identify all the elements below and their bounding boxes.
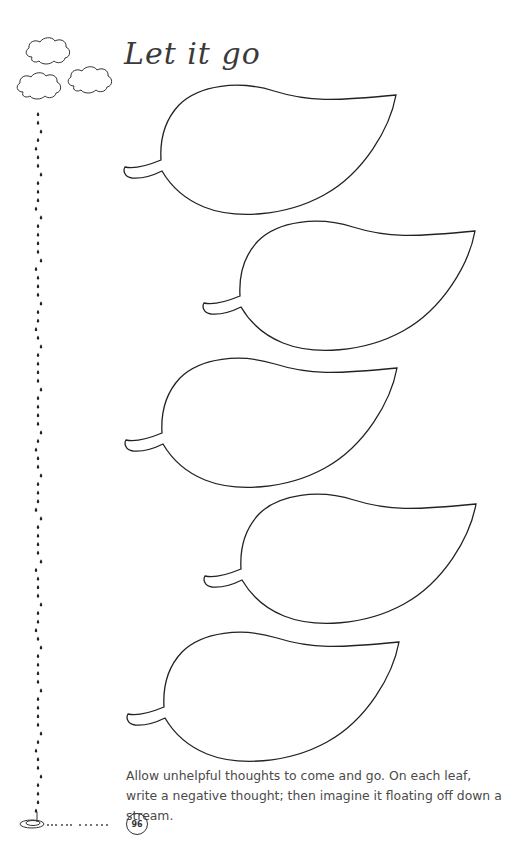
leaf-1[interactable] <box>124 85 396 214</box>
stream-droplets <box>35 112 43 813</box>
page-title: Let it go <box>124 36 261 71</box>
cloud-icon <box>68 67 111 93</box>
page-number: 96 <box>126 813 148 835</box>
instructions-text: Allow unhelpful thoughts to come and go.… <box>126 766 506 826</box>
puddle-icon <box>20 812 44 828</box>
leaf-4[interactable] <box>204 494 476 623</box>
leaf-5[interactable] <box>127 632 399 761</box>
leaf-3[interactable] <box>125 358 397 487</box>
cloud-icon <box>17 73 60 99</box>
stream-dots <box>47 824 108 826</box>
worksheet-art <box>0 0 509 846</box>
cloud-icon <box>26 38 69 64</box>
leaf-2[interactable] <box>203 221 475 350</box>
